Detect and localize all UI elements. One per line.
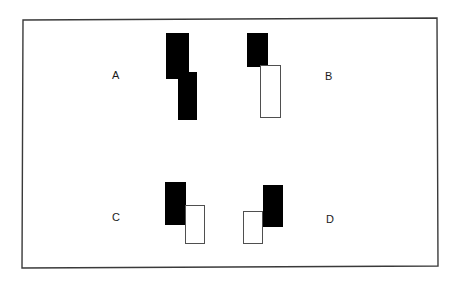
group-label-d: D [326,214,334,225]
bar-d-left [243,211,263,244]
bar-d-right [263,185,283,227]
stimulus-group-d: D [0,0,462,283]
figure-canvas: ABCD [0,0,462,283]
